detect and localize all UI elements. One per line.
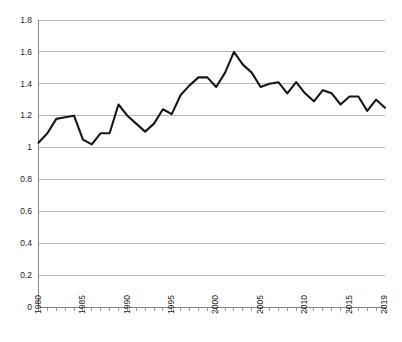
x-axis-tick-label: 1985 [77, 295, 87, 314]
y-axis-tick-label: 0.4 [20, 238, 32, 248]
y-axis-tick-label: 0.2 [20, 270, 32, 280]
x-axis-tick-label: 2019 [379, 295, 389, 314]
y-axis-tick-label: 1.6 [20, 47, 32, 57]
y-axis-labels-group: 00.20.40.60.811.21.41.61.8 [20, 15, 32, 312]
x-axis-tick-label: 2015 [344, 295, 354, 314]
data-series-line [39, 52, 386, 144]
x-axis-tick-label: 1980 [33, 295, 43, 314]
x-axis-group [39, 20, 386, 311]
y-axis-tick-label: 1 [27, 142, 32, 152]
y-axis-tick-label: 1.4 [20, 79, 32, 89]
gridlines-group [39, 20, 386, 307]
x-axis-tick-label: 1995 [166, 295, 176, 314]
y-axis-tick-label: 1.2 [20, 110, 32, 120]
x-axis-labels-group: 198019851990199520002005201020152019 [33, 295, 390, 314]
x-axis-tick-label: 2005 [255, 295, 265, 314]
x-axis-tick-label: 1990 [122, 295, 132, 314]
x-axis-tick-label: 2000 [210, 295, 220, 314]
y-axis-tick-label: 1.8 [20, 15, 32, 25]
y-axis-tick-label: 0.8 [20, 174, 32, 184]
line-chart: 00.20.40.60.811.21.41.61.8 1980198519901… [0, 0, 402, 342]
plot-area [39, 52, 386, 144]
y-axis-tick-label: 0 [27, 302, 32, 312]
x-axis-tick-label: 2010 [299, 295, 309, 314]
chart-container: 00.20.40.60.811.21.41.61.8 1980198519901… [0, 0, 402, 342]
y-axis-tick-label: 0.6 [20, 206, 32, 216]
